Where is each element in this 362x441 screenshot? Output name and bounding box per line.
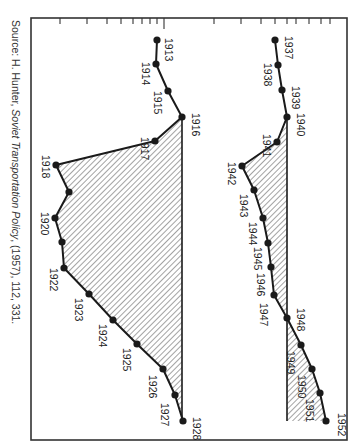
data-point-1943 [250, 186, 257, 193]
year-label: 1915 [152, 91, 164, 115]
data-point-1917 [151, 137, 158, 144]
year-label: 1925 [121, 348, 133, 372]
year-label: 1928 [191, 417, 203, 441]
year-label: 1946 [255, 273, 267, 297]
data-point-1944 [259, 214, 266, 221]
data-point-1918 [52, 161, 59, 168]
year-label: 1943 [238, 194, 250, 218]
year-label: 1952 [336, 413, 348, 437]
data-point-1948 [283, 314, 290, 321]
axis-ticks [60, 18, 330, 29]
source-suffix: , (1957), 112, 331. [10, 239, 22, 324]
year-label: 1913 [163, 38, 175, 62]
series-1913-1928 [51, 36, 186, 424]
year-label: 1917 [139, 137, 151, 161]
data-point-1951 [316, 389, 323, 396]
year-label: 1940 [295, 113, 307, 137]
year-label: 1941 [261, 134, 273, 158]
year-label: 1922 [48, 268, 60, 292]
data-point-1921 [58, 238, 65, 245]
year-label: 1939 [290, 86, 302, 110]
data-point-1949 [297, 341, 304, 348]
data-point-1938 [274, 61, 281, 68]
data-point-1922 [60, 264, 67, 271]
year-label: 1948 [295, 308, 307, 332]
data-point-1927 [171, 391, 178, 398]
source-note: Source: H. Hunter, Soviet Transportation… [10, 20, 22, 324]
data-point-1914 [152, 60, 159, 67]
year-label: 1950 [296, 375, 308, 399]
data-point-1947 [270, 291, 277, 298]
data-point-1925 [133, 340, 140, 347]
data-point-1916 [178, 113, 185, 120]
chart: 1913191419151916191719181920192219231924… [0, 0, 362, 441]
shaded-deficit-area [55, 117, 183, 421]
data-point-1945 [264, 239, 271, 246]
year-label: 1924 [97, 324, 109, 348]
data-point-1942 [238, 162, 245, 169]
year-label: 1937 [283, 36, 295, 60]
data-point-1937 [271, 36, 278, 43]
year-label: 1927 [159, 403, 171, 427]
year-label: 1916 [190, 113, 202, 137]
year-label: 1947 [258, 303, 270, 327]
data-point-1940 [283, 113, 290, 120]
data-point-1941 [273, 138, 280, 145]
data-point-1928 [179, 417, 186, 424]
data-point-1950 [308, 365, 315, 372]
year-label: 1918 [40, 155, 52, 179]
data-point-1946 [267, 263, 274, 270]
source-prefix: Source: H. Hunter, [10, 20, 22, 109]
source-title: Soviet Transportation Policy [10, 109, 22, 239]
year-label: 1951 [304, 399, 316, 423]
year-label: 1926 [147, 375, 159, 399]
year-label: 1945 [252, 247, 264, 271]
year-label: 1914 [140, 62, 152, 86]
year-label: 1949 [285, 351, 297, 375]
data-point-1939 [278, 86, 285, 93]
data-point-1913 [153, 36, 160, 43]
data-point-1924 [109, 316, 116, 323]
year-label: 1938 [262, 63, 274, 87]
year-label: 1923 [73, 298, 85, 322]
data-point-1923 [85, 290, 92, 297]
data-point-1926 [159, 365, 166, 372]
year-label: 1942 [226, 162, 238, 186]
year-label: 1920 [39, 212, 51, 236]
data-point-1952 [322, 417, 329, 424]
data-point-1920 [51, 214, 58, 221]
data-point-1915 [164, 87, 171, 94]
year-label: 1944 [247, 222, 259, 246]
data-point-1919 [65, 188, 72, 195]
